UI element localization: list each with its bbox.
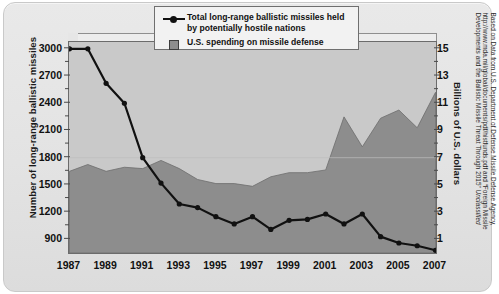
source-unclassified: Unclassified <box>475 190 482 225</box>
legend-label-missiles: Total long-range ballistic missiles held… <box>187 12 344 33</box>
y-tick-left: 2100 <box>39 123 62 135</box>
y-tick-left: 1500 <box>39 178 62 190</box>
y-axis-right-ticks: 15131197531 <box>437 0 463 294</box>
y-tick-right: 9 <box>437 123 443 135</box>
source-note: Based on Data from U.S. Department of De… <box>475 12 498 280</box>
y-tick-left: 1800 <box>39 151 62 163</box>
y-tick-right: 5 <box>437 178 443 190</box>
x-tick: 1997 <box>240 259 263 271</box>
x-tick: 1993 <box>167 259 190 271</box>
series-graphics <box>69 42 436 253</box>
source-line-2: http://www.mda.mil/global/documents/pdf/… <box>482 12 490 280</box>
y-tick-right: 11 <box>437 96 448 108</box>
source-line-3: Developments and the Ballistic Missile T… <box>475 12 483 280</box>
legend-missiles-line2: by potentially hostile nations <box>187 23 344 34</box>
legend-label-spending: U.S. spending on missile defense <box>187 37 324 48</box>
line-marker-icon <box>161 12 187 22</box>
y-tick-left: 2400 <box>39 96 62 108</box>
x-tick: 2001 <box>313 259 336 271</box>
x-tick: 1995 <box>203 259 226 271</box>
x-tick: 1989 <box>93 259 116 271</box>
y-tick-left: 3000 <box>39 42 62 54</box>
source-line-1: Based on Data from U.S. Department of De… <box>490 12 498 280</box>
x-axis-ticks: 1987198919911993199519971999200120032005… <box>68 259 437 275</box>
legend-missiles-line1: Total long-range ballistic missiles held <box>187 12 344 23</box>
plot-canvas <box>68 41 437 254</box>
chart-screenshot: Number of long-range ballistic missiles … <box>0 0 499 294</box>
y-tick-right: 13 <box>437 69 449 81</box>
y-tick-left: 2700 <box>39 69 62 81</box>
chart-legend: Total long-range ballistic missiles held… <box>154 6 359 50</box>
y-tick-left: 1200 <box>39 205 62 217</box>
x-tick: 2003 <box>350 259 373 271</box>
legend-item-spending: U.S. spending on missile defense <box>161 37 352 50</box>
x-tick: 2005 <box>386 259 409 271</box>
x-tick: 2007 <box>423 259 446 271</box>
y-tick-right: 1 <box>437 232 443 244</box>
y-tick-right: 3 <box>437 205 443 217</box>
x-tick: 1987 <box>57 259 80 271</box>
x-tick: 1999 <box>276 259 299 271</box>
filled-square-icon <box>161 37 187 50</box>
y-tick-left: 900 <box>44 232 62 244</box>
legend-item-missiles: Total long-range ballistic missiles held… <box>161 12 352 33</box>
plot-area <box>68 33 437 255</box>
x-tick: 1991 <box>130 259 153 271</box>
y-axis-left-ticks: 3000270024002100180015001200900 <box>14 0 62 294</box>
y-tick-right: 15 <box>437 42 449 54</box>
legend-spending-line1: U.S. spending on missile defense <box>187 37 324 48</box>
y-tick-right: 7 <box>437 151 443 163</box>
